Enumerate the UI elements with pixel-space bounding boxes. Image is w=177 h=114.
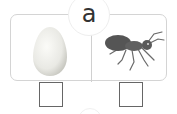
ant-icon (100, 30, 166, 72)
target-letter: a (82, 2, 97, 26)
egg-icon (32, 25, 68, 77)
card-divider (91, 28, 92, 82)
next-letter-circle (78, 108, 102, 114)
egg-checkbox[interactable] (39, 82, 63, 107)
ant-checkbox[interactable] (119, 82, 143, 107)
